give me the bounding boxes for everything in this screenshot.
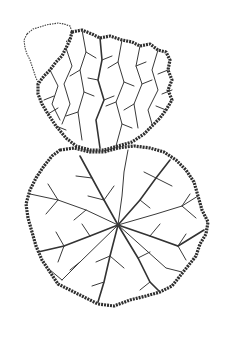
drainage-map [0, 0, 228, 337]
upper-lobe-coastline [38, 30, 172, 150]
upper-lobe-rivers [44, 30, 172, 148]
drainage-network-figure [0, 0, 228, 337]
